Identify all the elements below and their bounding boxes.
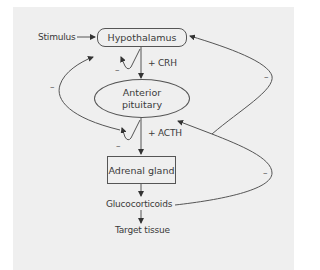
acth-feedback-loop <box>122 120 140 140</box>
target-tissue-label: Target tissue <box>115 226 170 235</box>
right-lower-minus-sign: – <box>263 169 268 178</box>
right-upper-feedback-loop <box>190 36 272 134</box>
anterior-pituitary-node: Anterior pituitary <box>94 79 190 118</box>
adrenal-gland-node: Adrenal gland <box>107 156 176 184</box>
right-upper-minus-sign: – <box>264 73 269 82</box>
crh-feedback-loop <box>121 49 140 69</box>
hypothalamus-label: Hypothalamus <box>108 32 177 43</box>
acth-minus-sign: – <box>116 142 121 151</box>
left-loop-minus-sign: – <box>50 83 55 92</box>
pituitary-label-line1: Anterior <box>123 87 161 99</box>
pituitary-feedback-branch <box>178 121 212 134</box>
crh-label: + CRH <box>148 59 177 68</box>
glucocorticoids-label: Glucocorticoids <box>106 200 172 209</box>
adrenal-gland-label: Adrenal gland <box>109 165 175 176</box>
right-lower-feedback-loop <box>175 134 272 205</box>
pituitary-label-line2: pituitary <box>122 99 162 111</box>
stimulus-label: Stimulus <box>38 33 76 42</box>
crh-minus-sign: – <box>115 66 120 75</box>
hypothalamus-node: Hypothalamus <box>97 28 187 47</box>
acth-label: + ACTH <box>148 129 182 138</box>
